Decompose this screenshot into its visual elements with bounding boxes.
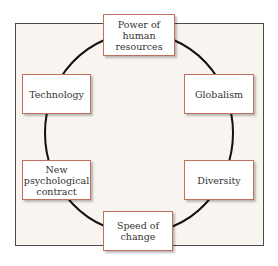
node-diversity: Diversity — [184, 160, 254, 200]
node-power-of-human-resources: Power of human resources — [103, 14, 175, 56]
node-speed-of-change: Speed of change — [103, 211, 173, 251]
node-technology: Technology — [22, 74, 91, 114]
node-new-psychological-contract: New psychological contract — [22, 160, 91, 200]
node-globalism: Globalism — [184, 74, 254, 114]
